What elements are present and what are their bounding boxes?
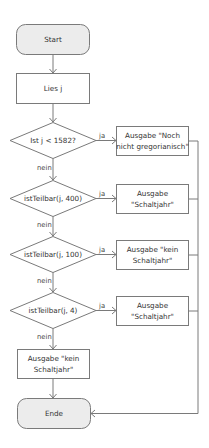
- decision-4-yes-label: ja: [98, 302, 105, 310]
- final-output-line-1: Ausgabe "kein: [28, 354, 80, 363]
- output-2-line-1: Ausgabe: [137, 189, 169, 198]
- output-1: Ausgabe "Noch nicht gregorianisch": [116, 127, 188, 156]
- output-3: Ausgabe "kein Schaltjahr": [117, 241, 189, 270]
- decision-3-label: istTeilbar(j, 100): [24, 250, 82, 259]
- decision-3-no-label: nein: [37, 277, 52, 285]
- final-output-line-2: Schaltjahr": [34, 365, 74, 374]
- output-2: Ausgabe "Schaltjahr": [117, 185, 189, 214]
- output-4-line-1: Ausgabe: [137, 301, 169, 310]
- output-4-line-2: "Schaltjahr": [131, 312, 174, 321]
- decision-2: istTeilbar(j, 400): [10, 181, 96, 217]
- decision-1-yes-label: ja: [98, 132, 105, 140]
- output-3-line-1: Ausgabe "kein: [127, 245, 179, 254]
- decision-1-label: Ist j < 1582?: [30, 136, 76, 145]
- decision-1: Ist j < 1582?: [10, 123, 96, 159]
- decision-3-yes-label: ja: [98, 246, 105, 254]
- read-label: Lies j: [44, 84, 62, 93]
- output-1-line-1: Ausgabe "Noch: [125, 131, 180, 140]
- decision-4-label: istTeilbar(j, 4): [29, 306, 78, 315]
- flowchart: Start Lies j Ist j < 1582? ja Ausgabe "N…: [0, 0, 209, 448]
- end-label: Ende: [45, 409, 64, 418]
- end-node: Ende: [18, 399, 91, 429]
- decision-3: istTeilbar(j, 100): [10, 237, 96, 273]
- output-1-line-2: nicht gregorianisch": [116, 142, 188, 151]
- output-4: Ausgabe "Schaltjahr": [117, 297, 189, 326]
- output-3-line-2: Schaltjahr": [133, 256, 173, 265]
- decision-4: istTeilbar(j, 4): [10, 293, 96, 329]
- start-label: Start: [44, 35, 62, 44]
- start-node: Start: [17, 25, 90, 55]
- decision-2-label: istTeilbar(j, 400): [24, 194, 82, 203]
- merge-connector: [91, 141, 198, 414]
- decision-2-no-label: nein: [37, 221, 52, 229]
- decision-1-no-label: nein: [37, 164, 52, 172]
- final-output: Ausgabe "kein Schaltjahr": [18, 350, 90, 379]
- read-node: Lies j: [17, 74, 90, 104]
- output-2-line-2: "Schaltjahr": [131, 200, 174, 209]
- decision-2-yes-label: ja: [98, 190, 105, 198]
- decision-4-no-label: nein: [37, 333, 52, 341]
